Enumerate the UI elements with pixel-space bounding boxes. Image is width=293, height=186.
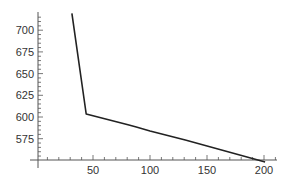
y-axis: 575600625650675700: [16, 12, 43, 168]
y-tick-label: 675: [16, 46, 34, 58]
x-tick-label: 150: [198, 164, 216, 176]
x-tick-label: 100: [141, 164, 159, 176]
x-tick-label: 200: [255, 164, 273, 176]
y-tick-label: 600: [16, 111, 34, 123]
x-axis: 50100150200: [30, 155, 277, 176]
y-tick-label: 700: [16, 24, 34, 36]
y-tick-label: 575: [16, 133, 34, 145]
data-line: [72, 13, 265, 162]
plot-area: [72, 13, 265, 162]
y-tick-label: 650: [16, 68, 34, 80]
line-chart: 575600625650675700 50100150200: [0, 0, 293, 186]
x-tick-label: 50: [87, 164, 99, 176]
y-tick-label: 625: [16, 89, 34, 101]
